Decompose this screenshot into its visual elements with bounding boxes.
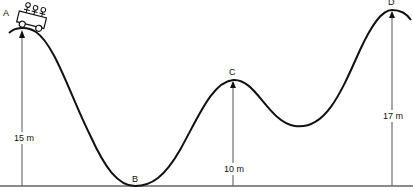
point-label-b: B [132, 174, 138, 184]
point-label-c: C [229, 67, 236, 77]
point-label-a: A [3, 8, 9, 18]
roller-coaster-diagram: 15 m 10 m 17 m A B C D [0, 0, 413, 191]
point-label-d: D [388, 0, 395, 7]
height-arrow-d [389, 11, 395, 186]
height-arrow-a [19, 30, 25, 186]
height-label-a: 15 m [14, 133, 34, 143]
height-label-c: 10 m [224, 164, 244, 174]
track-curve [9, 10, 411, 186]
height-label-d: 17 m [383, 111, 403, 121]
